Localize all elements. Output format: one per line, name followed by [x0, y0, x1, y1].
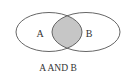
set-a-label: A — [36, 28, 44, 39]
diagram-caption: A AND B — [39, 63, 76, 73]
venn-diagram: A B A AND B — [0, 0, 128, 75]
set-b-label: B — [86, 28, 93, 39]
